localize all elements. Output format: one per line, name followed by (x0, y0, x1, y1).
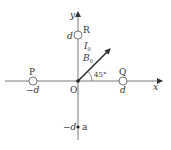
a-label: a (82, 122, 88, 132)
point-a-dot (76, 125, 79, 128)
origin-label: O (70, 85, 77, 95)
r-coord-label: d (67, 31, 73, 41)
q-label: Q (119, 67, 126, 77)
p-coord-label: −d (26, 85, 40, 95)
a-coord-label: −d (63, 122, 77, 132)
b0-label: B0 (82, 53, 93, 64)
angle-arc (88, 71, 92, 81)
wire-q-circle (119, 77, 127, 85)
current-label: I0 (83, 41, 91, 52)
q-coord-label: d (120, 85, 126, 95)
r-label: R (83, 25, 90, 35)
coordinate-diagram: y x O R d I0 B0 45° P −d Q d −d a (0, 0, 171, 150)
wire-r-circle (74, 31, 82, 39)
wire-p-circle (29, 77, 37, 85)
y-axis-label: y (69, 10, 76, 20)
p-label: P (29, 67, 35, 77)
x-axis-label: x (153, 82, 158, 92)
angle-label: 45° (94, 71, 106, 79)
origin-dot (76, 79, 80, 83)
